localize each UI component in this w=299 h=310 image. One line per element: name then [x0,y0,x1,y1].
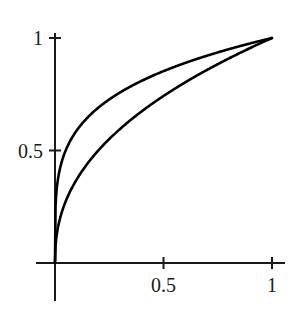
x-tick-label-1: 1 [267,274,277,296]
y-tick-label-0.5: 0.5 [18,140,43,162]
x-axis-tick-labels: 0.51 [151,274,277,296]
x-tick-label-0.5: 0.5 [151,274,176,296]
curve-group [55,38,272,263]
chart-figure: 0.51 0.51 [0,0,299,310]
upper-curve [55,38,272,263]
power-curves-plot: 0.51 0.51 [0,0,299,310]
y-axis-tick-labels: 0.51 [18,27,43,162]
y-tick-label-1: 1 [33,27,43,49]
